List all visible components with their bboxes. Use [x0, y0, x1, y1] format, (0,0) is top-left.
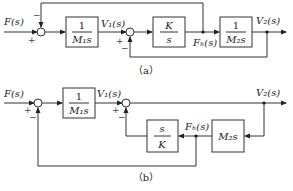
- block3-label-b: M₂s: [217, 131, 237, 142]
- sum2-minus-b: −: [118, 112, 126, 122]
- diagram-b: F(s) + − 1 M₁s V₁(s) + − V₂(s) M₂s Fₕ(s)…: [3, 87, 286, 183]
- sum2-minus-a: −: [121, 43, 129, 53]
- block1-den-b: M₁s: [68, 105, 88, 116]
- sum1-plus-a: +: [28, 35, 36, 45]
- block2-den-a: s: [166, 34, 171, 45]
- diagram-a: F(s) + − 1 M₁s V₁(s) + − K s Fₕ(s) 1 M₂s: [3, 3, 286, 76]
- v1-label-b: V₁(s): [97, 88, 121, 99]
- block1-num-b: 1: [76, 91, 82, 102]
- block2-num-b: s: [159, 123, 164, 134]
- block3-num-a: 1: [233, 20, 239, 31]
- v2-label-b: V₂(s): [256, 87, 280, 98]
- summing-junction-1-b: [34, 99, 42, 107]
- block1-num-a: 1: [79, 20, 85, 31]
- sum1-minus-a: −: [33, 10, 41, 20]
- summing-junction-2-a: [126, 28, 134, 36]
- sum1-minus-b: −: [29, 112, 37, 122]
- input-label-a: F(s): [3, 16, 24, 27]
- fb-label-a: Fₕ(s): [192, 37, 217, 48]
- input-label-b: F(s): [3, 88, 24, 99]
- caption-b: （b）: [133, 172, 159, 183]
- caption-a: （a）: [133, 65, 159, 76]
- block2-num-a: K: [164, 20, 173, 31]
- summing-junction-1-a: [37, 28, 45, 36]
- block3-den-a: M₂s: [225, 34, 245, 45]
- v1-label-a: V₁(s): [101, 18, 125, 29]
- fb-label-b: Fₕ(s): [184, 121, 209, 132]
- block-diagrams: F(s) + − 1 M₁s V₁(s) + − K s Fₕ(s) 1 M₂s: [0, 0, 293, 191]
- block2-den-b: K: [157, 139, 166, 150]
- v2-label-a: V₂(s): [256, 15, 280, 26]
- summing-junction-2-b: [122, 99, 130, 107]
- block1-den-a: M₁s: [71, 34, 91, 45]
